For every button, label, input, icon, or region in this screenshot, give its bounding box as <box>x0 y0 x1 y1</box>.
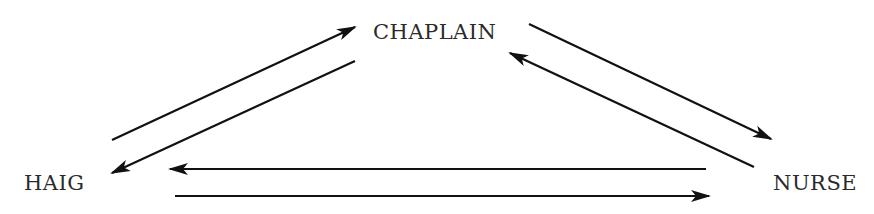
node-nurse: NURSE <box>773 171 857 195</box>
arrow-chaplain-to-haig <box>112 61 355 173</box>
arrow-haig-to-chaplain <box>112 27 355 140</box>
arrow-chaplain-to-nurse <box>529 24 771 139</box>
arrow-nurse-to-chaplain <box>510 53 754 167</box>
relationship-diagram: CHAPLAIN HAIG NURSE <box>0 0 874 214</box>
node-haig: HAIG <box>24 171 85 195</box>
node-chaplain: CHAPLAIN <box>373 20 496 44</box>
